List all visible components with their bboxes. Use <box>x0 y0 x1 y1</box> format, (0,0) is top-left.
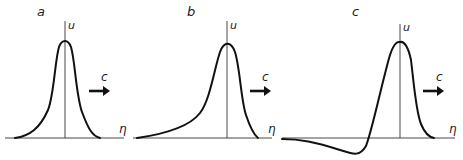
panel-label-b: b <box>187 4 195 19</box>
panel-b: b u η c <box>133 4 276 138</box>
panel-a: a u η c <box>5 4 127 138</box>
u-label-a: u <box>68 19 75 32</box>
eta-label-a: η <box>119 122 127 136</box>
panel-label-a: a <box>37 4 45 19</box>
u-label-b: u <box>230 19 237 32</box>
wave-curve-c <box>282 42 434 154</box>
arrow-right-icon <box>423 86 444 96</box>
velocity-label-c: c <box>436 70 443 84</box>
velocity-label-b: c <box>262 70 269 84</box>
arrow-right-icon <box>89 86 110 96</box>
velocity-label-a: c <box>101 70 108 84</box>
wave-curve-b <box>137 44 258 138</box>
panel-label-c: c <box>352 4 359 19</box>
u-label-c: u <box>403 21 410 34</box>
eta-label-b: η <box>268 122 276 136</box>
wave-curve-a <box>15 41 100 138</box>
panel-c: c u η c <box>282 4 457 154</box>
arrow-right-icon <box>250 86 271 96</box>
wave-profile-diagram: a u η c b u η c c u η c <box>0 0 463 160</box>
eta-label-c: η <box>449 122 457 136</box>
